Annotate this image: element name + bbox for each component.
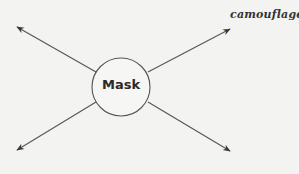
arrow-bottom-right — [148, 102, 230, 151]
arrow-bottom-left — [17, 102, 96, 150]
branch-label-top-right: camouflage — [230, 8, 299, 21]
arrow-top-left — [17, 27, 96, 72]
arrow-top-right — [148, 29, 230, 72]
center-node-label: Mask — [91, 77, 151, 92]
